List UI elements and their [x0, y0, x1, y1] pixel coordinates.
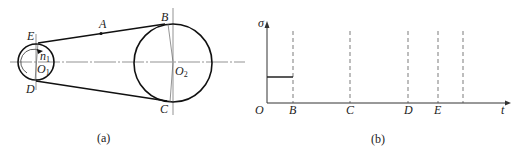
label-a: A: [98, 17, 107, 31]
large-pulley-contact-chord-bottom: [170, 62, 173, 102]
y-axis-label: σ: [258, 16, 265, 30]
label-o2: O2: [175, 64, 188, 79]
stress-time-chart: σ t O B C D E (b): [255, 16, 511, 146]
point-a-marker: [99, 32, 102, 35]
figure-canvas: E A B D C n1 O1 O2 (a) σ t O B C D E (b): [0, 0, 517, 160]
label-d: D: [25, 82, 35, 96]
belt-drive-diagram: E A B D C n1 O1 O2 (a): [10, 8, 245, 145]
tick-label-b: B: [289, 103, 297, 117]
x-axis-arrow-icon: [505, 101, 511, 106]
x-axis-label: t: [501, 103, 505, 117]
origin-label: O: [255, 103, 264, 117]
tick-label-c: C: [346, 103, 355, 117]
label-o1: O1: [37, 62, 50, 77]
caption-b: (b): [371, 132, 385, 146]
label-c: C: [160, 102, 169, 116]
label-e: E: [26, 29, 35, 43]
tick-label-d: D: [403, 103, 413, 117]
large-pulley-contact-chord-top: [168, 24, 173, 62]
y-axis-arrow-icon: [265, 21, 270, 28]
belt-slack-span: [36, 81, 167, 101]
label-b: B: [161, 10, 169, 24]
tick-label-e: E: [433, 103, 442, 117]
caption-a: (a): [97, 131, 110, 145]
